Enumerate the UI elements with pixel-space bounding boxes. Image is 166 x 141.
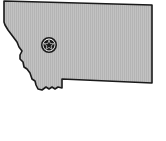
state-map — [0, 0, 166, 141]
montana-outline — [4, 1, 152, 90]
capital-star-icon — [42, 38, 56, 52]
